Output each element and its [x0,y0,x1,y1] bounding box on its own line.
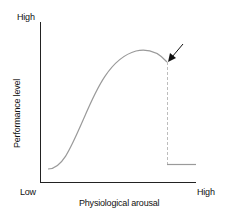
plot-area [0,0,226,216]
y-axis-title: Performance level [12,79,22,148]
performance-curve [48,50,167,169]
x-axis-title: Physiological arousal [79,198,159,208]
x-axis-high-label: High [197,187,215,197]
performance-arousal-diagram: High Low High Physiological arousal Perf… [0,0,226,216]
x-axis-low-label: Low [20,187,36,197]
arrow-icon [168,44,183,62]
y-axis-high-label: High [17,12,35,22]
